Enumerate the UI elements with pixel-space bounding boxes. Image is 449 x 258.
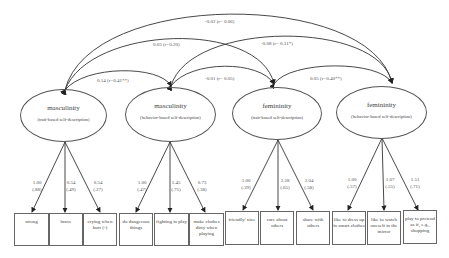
- indicator-box: strong: [14, 213, 49, 246]
- corr-label: -0.01 (r= 0.05): [205, 76, 234, 81]
- loading-label: 0.54(.49): [61, 180, 81, 193]
- indicator-box: like to watch oneself in the mirror: [367, 211, 401, 245]
- corr-label: 0.03 (r=0.20): [153, 42, 180, 47]
- indicator-box: care about others: [260, 211, 294, 245]
- corr-arc-2-3: [274, 66, 392, 84]
- loading-label: 1.00(.88): [27, 180, 47, 193]
- loading-label: 1.00(.47): [132, 180, 152, 193]
- latent-masculinity-trait: masculinity (trait-based self-descriptio…: [20, 89, 107, 142]
- indicator-box: play to pretend as if, e.g., shopping: [403, 210, 437, 244]
- corr-label: 0.14 (r=0.41**): [97, 78, 129, 83]
- loading-label: 2.28(.65): [275, 178, 295, 191]
- indicator-box: fighting in play: [154, 213, 189, 246]
- indicator-box: crying when hurt (-): [83, 213, 117, 246]
- loading-label: 1.00(.39): [236, 178, 256, 191]
- corr-label: -0.08 (r= 0.31*): [261, 41, 293, 46]
- latent-femininity-trait: femininity (trait-based self-description…: [232, 87, 322, 140]
- sem-path-diagram: -0.02 (r= 0.06) 0.03 (r=0.20) -0.08 (r= …: [0, 0, 449, 258]
- indicator-box: like to dress up in smart clothes: [332, 211, 366, 245]
- latent-femininity-behavior: femininity (behavior-based self-descript…: [336, 86, 427, 139]
- loading-label: 2.04(.58): [299, 178, 319, 191]
- latent-masculinity-behavior: masculinity (behavior-based self-descrip…: [125, 87, 216, 142]
- loading-label: 1.07(.55): [380, 177, 400, 190]
- loading-label: 1.00(.57): [342, 177, 362, 190]
- loading-label: 1.51(.71): [405, 177, 425, 190]
- corr-label: -0.02 (r= 0.06): [205, 19, 234, 24]
- corr-label: 0.05 (r=0.40**): [310, 76, 342, 81]
- indicator-box: brave: [49, 213, 83, 246]
- indicator-box: do dangerous things: [119, 213, 153, 246]
- indicator-box: friendly/ nice: [225, 211, 259, 245]
- indicator-box: share with others: [296, 211, 330, 245]
- loading-label: 0.73(.38): [192, 180, 212, 193]
- indicator-box: make clothes dirty when playing: [189, 213, 224, 246]
- loading-label: 0.54(.27): [88, 180, 108, 193]
- loading-label: 1.45(.75): [166, 180, 186, 193]
